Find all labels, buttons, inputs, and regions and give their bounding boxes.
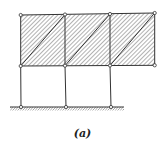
support-hinge-icon — [19, 105, 22, 108]
hinge-node-icon — [108, 12, 111, 15]
bottom-chord — [21, 65, 155, 66]
column-3 — [110, 66, 111, 108]
support-hinge-icon — [109, 105, 112, 108]
column-2 — [65, 66, 66, 107]
hinge-node-icon — [63, 64, 66, 67]
figure-caption: (a) — [0, 127, 165, 140]
hinge-node-icon — [19, 64, 22, 67]
hinge-node-icon — [153, 64, 156, 67]
hinge-node-icon — [19, 13, 22, 16]
truss-frame-diagram — [0, 0, 165, 148]
hinge-node-icon — [63, 13, 66, 16]
hinge-node-icon — [108, 64, 111, 67]
hinge-node-icon — [153, 11, 156, 14]
support-hinge-icon — [64, 105, 67, 108]
